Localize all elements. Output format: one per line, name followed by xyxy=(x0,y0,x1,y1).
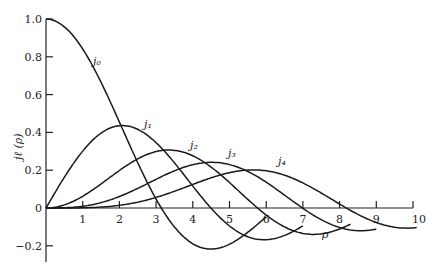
x-tick-label: 1 xyxy=(79,213,86,226)
curve-label-j3: j₃ xyxy=(225,147,236,160)
y-tick-label: 0.6 xyxy=(25,89,43,102)
x-tick-label: 3 xyxy=(153,213,160,226)
y-tick-label: 0.4 xyxy=(25,126,43,139)
y-tick-label: 0.8 xyxy=(25,51,43,64)
x-tick-label: 7 xyxy=(299,213,306,226)
bessel-function-plot: −0.200.20.40.60.81.012345678910 ρ jℓ (ρ)… xyxy=(0,0,437,273)
curve-label-j1: j₁ xyxy=(141,118,152,131)
y-tick-label: 0.2 xyxy=(25,164,43,177)
x-tick-label: 2 xyxy=(116,213,123,226)
curve-label-j4: j₄ xyxy=(275,155,286,168)
curve-label-j2: j₂ xyxy=(187,139,198,152)
axes: −0.200.20.40.60.81.012345678910 xyxy=(15,13,426,262)
y-tick-label: 0 xyxy=(35,202,42,215)
curve-label-j0: j₀ xyxy=(90,55,101,68)
x-tick-label: 10 xyxy=(412,213,426,226)
x-tick-label: 4 xyxy=(189,213,196,226)
x-tick-label: 8 xyxy=(336,213,343,226)
y-tick-label: 1.0 xyxy=(25,13,43,26)
y-axis-label: jℓ (ρ) xyxy=(12,133,25,163)
y-tick-label: −0.2 xyxy=(15,240,42,253)
x-axis-label: ρ xyxy=(321,228,329,241)
